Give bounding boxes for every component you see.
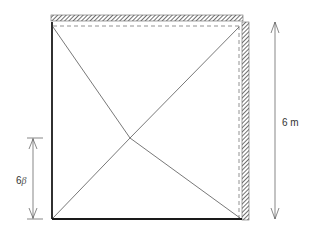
point-height-label: 6β	[16, 175, 27, 186]
top-fixed-support	[51, 15, 243, 21]
height-dimension-arrow	[27, 138, 43, 219]
side-dimension-label: 6 m	[282, 117, 299, 128]
side-dimension-arrow	[271, 22, 279, 219]
slab-diagram: 6β 6 m	[0, 0, 311, 233]
yield-lines	[53, 27, 240, 218]
right-fixed-support	[242, 22, 249, 220]
